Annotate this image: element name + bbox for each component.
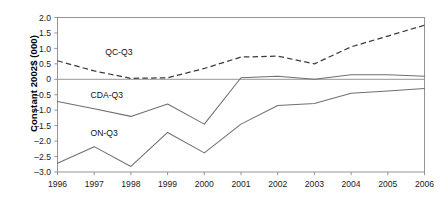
x-tick-label: 2005 — [378, 179, 397, 189]
series-label-qc-q3: QC-Q3 — [105, 47, 132, 57]
y-tick-label: 0.5 — [39, 59, 51, 69]
chart-container: Constant 2002$ (000) 2.01.51.00.50–0.5–1… — [0, 0, 441, 204]
x-tick-label: 2004 — [342, 179, 361, 189]
y-tick-label: –3.0 — [34, 167, 51, 177]
y-tick-label: 1.5 — [39, 28, 51, 38]
x-tick-label: 2006 — [415, 179, 434, 189]
y-axis-title: Constant 2002$ (000) — [28, 4, 39, 164]
x-tick-label: 1997 — [85, 179, 104, 189]
x-tick-label: 2001 — [231, 179, 250, 189]
y-tick-label: 0 — [46, 74, 51, 84]
series-annotations: QC-Q3CDA-Q3ON-Q3 — [91, 47, 133, 137]
x-tick-labels: 1996199719981999200020012002200320042005… — [48, 179, 434, 189]
series-label-on-q3: ON-Q3 — [91, 128, 118, 138]
y-tick-marks — [54, 18, 57, 173]
y-tick-label: 2.0 — [39, 13, 51, 23]
x-tick-label: 2000 — [195, 179, 214, 189]
series-label-cda-q3: CDA-Q3 — [91, 90, 124, 100]
x-tick-label: 1999 — [158, 179, 177, 189]
x-tick-label: 2003 — [305, 179, 324, 189]
y-tick-label: 1.0 — [39, 44, 51, 54]
x-tick-label: 1996 — [48, 179, 67, 189]
x-tick-label: 2002 — [268, 179, 287, 189]
line-chart-plot: 2.01.51.00.50–0.5–1.0–1.5–2.0–2.5–3.0 19… — [0, 0, 441, 204]
x-tick-marks — [58, 172, 425, 175]
x-tick-label: 1998 — [121, 179, 140, 189]
